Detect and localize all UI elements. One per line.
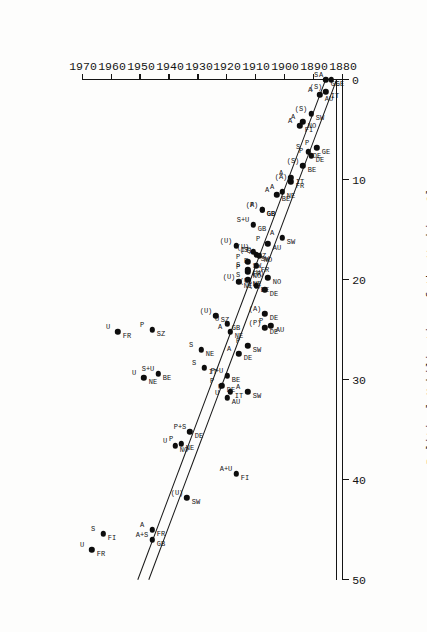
data-point — [317, 92, 323, 98]
point-country-label: BE — [232, 377, 240, 385]
point-country-label: FI — [241, 475, 249, 483]
data-point — [265, 241, 271, 247]
point-program-label: U — [163, 438, 167, 446]
y-tick — [343, 379, 349, 380]
point-country-label: IT — [296, 179, 304, 187]
point-country-label: DE — [270, 291, 278, 299]
point-program-label: A — [264, 187, 268, 195]
point-program-label: S — [296, 144, 300, 152]
point-program-label: S — [236, 262, 240, 270]
point-program-label: (A) — [249, 306, 262, 314]
point-program-label: (U) — [200, 308, 213, 316]
data-point — [89, 547, 95, 553]
point-program-label: S — [189, 342, 193, 350]
x-tick-label: 1950 — [127, 60, 155, 73]
y-tick — [343, 79, 349, 80]
x-tick-label: 1970 — [69, 60, 97, 73]
y-tick-label: 50 — [352, 574, 366, 587]
data-point — [262, 325, 268, 331]
point-country-label: BE — [163, 375, 171, 383]
point-program-label: P — [250, 202, 254, 210]
point-program-label: A — [279, 170, 283, 178]
point-program-label: P — [140, 322, 144, 330]
y-tick — [343, 579, 349, 580]
point-country-label: NO — [273, 279, 281, 287]
y-tick-label: 20 — [352, 274, 366, 287]
point-country-label: AU — [276, 327, 284, 335]
point-country-label: AU — [325, 96, 333, 104]
point-program-label: S — [314, 72, 318, 80]
point-country-label: SZ — [221, 317, 229, 325]
y-tick-label: 40 — [352, 474, 366, 487]
x-tick — [255, 74, 256, 80]
data-point — [262, 311, 268, 317]
scatter-plot: 0102030405018801890190019101920193019401… — [83, 80, 343, 580]
x-tick — [284, 74, 285, 80]
data-point — [245, 259, 251, 265]
point-program-label: S — [91, 526, 95, 534]
data-point — [254, 283, 260, 289]
data-point — [155, 371, 161, 377]
x-tick-label: 1930 — [185, 60, 213, 73]
point-country-label: DE — [226, 387, 234, 395]
point-country-label: BE — [261, 287, 269, 295]
point-program-label: U — [80, 542, 84, 550]
point-program-label: U — [132, 370, 136, 378]
x-tick — [139, 74, 140, 80]
point-program-label: (U) — [240, 278, 253, 286]
figure-sheet: Figure 2.6 Social Insurance Legislation … — [0, 0, 427, 632]
x-tick-label: 1900 — [271, 60, 299, 73]
y-tick — [343, 179, 349, 180]
data-point — [259, 207, 265, 213]
data-point — [219, 383, 225, 389]
data-point — [308, 111, 314, 117]
x-tick — [342, 74, 343, 80]
point-country-label: FR — [261, 267, 269, 275]
point-country-label: SW — [287, 239, 295, 247]
data-point — [251, 222, 257, 228]
data-point — [245, 267, 251, 273]
y-tick — [343, 479, 349, 480]
point-program-label: A — [270, 230, 274, 238]
y-tick-label: 0 — [352, 74, 359, 87]
data-point — [233, 471, 239, 477]
x-axis-line — [83, 79, 343, 80]
x-tick-label: 1940 — [156, 60, 184, 73]
point-country-label: FR — [252, 271, 260, 279]
point-program-label: P — [256, 236, 260, 244]
point-country-label: SW — [252, 393, 260, 401]
data-point — [236, 351, 242, 357]
data-point — [314, 145, 320, 151]
point-program-label: A — [218, 324, 222, 332]
point-country-label: FI — [108, 535, 116, 543]
data-point — [187, 429, 193, 435]
data-point — [280, 189, 286, 195]
point-country-label: DE — [270, 315, 278, 323]
data-point — [288, 175, 294, 181]
point-program-label: A — [288, 118, 292, 126]
data-point — [213, 313, 219, 319]
data-point — [173, 443, 179, 449]
zero-reference-line — [336, 80, 337, 580]
data-point — [141, 375, 147, 381]
point-program-label: P+S — [174, 424, 187, 432]
point-country-label: SW — [252, 347, 260, 355]
point-country-label: DE — [244, 355, 252, 363]
point-program-label: (U) — [220, 238, 233, 246]
point-country-label: SW — [316, 115, 324, 123]
data-point — [225, 373, 231, 379]
x-tick — [111, 74, 112, 80]
point-program-label: (S) — [286, 158, 299, 166]
point-country-label: IT — [235, 393, 243, 401]
data-point — [150, 537, 156, 543]
point-program-label: A+S — [136, 532, 149, 540]
scanned-page: Figure 2.6 Social Insurance Legislation … — [0, 0, 427, 632]
x-tick — [82, 74, 83, 80]
point-program-label: S+U — [142, 366, 155, 374]
x-tick-label: 1960 — [98, 60, 126, 73]
point-country-label: DE — [313, 153, 321, 161]
data-point — [150, 327, 156, 333]
data-point — [115, 329, 121, 335]
point-country-label: FR — [122, 333, 130, 341]
y-tick-label: 30 — [352, 374, 366, 387]
